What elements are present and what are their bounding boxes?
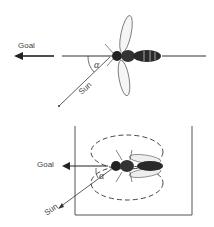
- goal-label-top: Goal: [18, 41, 35, 50]
- top-panel: [14, 14, 206, 107]
- goal-arrowhead-icon: [14, 52, 23, 60]
- goal-label-bottom: Goal: [37, 160, 54, 169]
- hive-box: [75, 126, 192, 215]
- diagram-canvas: [0, 0, 214, 227]
- angle-label-bottom: α: [99, 170, 104, 181]
- bee-bottom-icon: [111, 150, 163, 182]
- bee-top-icon: [105, 14, 161, 96]
- angle-label-top: α: [94, 59, 99, 70]
- goal-arrowhead-icon: [62, 162, 70, 170]
- bottom-panel: [58, 126, 192, 215]
